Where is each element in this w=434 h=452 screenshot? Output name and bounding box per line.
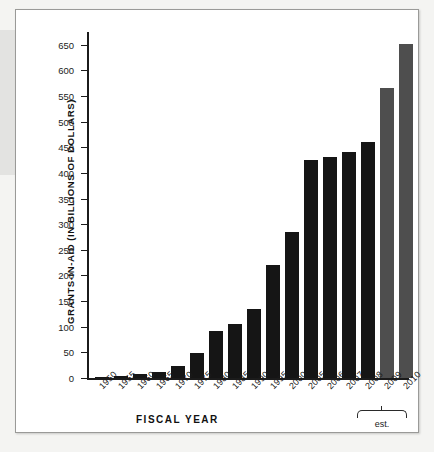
estimate-bracket-tick (381, 406, 382, 411)
estimate-bracket (357, 410, 407, 418)
y-axis-tick-label: 0 (40, 373, 74, 384)
y-axis-tick-label: 300 (40, 219, 74, 230)
y-axis-tick-label: 50 (40, 347, 74, 358)
y-axis-tick-label: 250 (40, 244, 74, 255)
y-axis-tick-label: 100 (40, 321, 74, 332)
bar (399, 44, 413, 378)
y-axis-tick-label: 550 (40, 91, 74, 102)
chart-figure-panel: GRANTS-IN-AID (IN BILLIONS OF DOLLARS) 0… (15, 9, 419, 433)
estimate-label: est. (357, 419, 407, 429)
bar (361, 142, 375, 378)
bar (342, 152, 356, 378)
y-axis-tick-label: 600 (40, 65, 74, 76)
plot-area (87, 32, 417, 378)
bar (304, 160, 318, 378)
x-axis-title: FISCAL YEAR (136, 414, 219, 425)
bar (228, 324, 242, 378)
bar (323, 157, 337, 378)
y-axis-tick-label: 350 (40, 193, 74, 204)
bar (285, 232, 299, 378)
y-axis-tick-label: 400 (40, 167, 74, 178)
bar-series (87, 32, 417, 378)
bar (209, 331, 223, 378)
y-axis-tick-label: 150 (40, 296, 74, 307)
y-axis-tick-label: 500 (40, 116, 74, 127)
bar (266, 265, 280, 378)
bar (247, 309, 261, 378)
y-axis-tick-label: 200 (40, 270, 74, 281)
y-axis-tick-label: 650 (40, 39, 74, 50)
y-axis-title: GRANTS-IN-AID (IN BILLIONS OF DOLLARS) (65, 62, 76, 362)
y-axis-tick (81, 378, 87, 379)
y-axis-tick-label: 450 (40, 142, 74, 153)
bar (380, 88, 394, 378)
